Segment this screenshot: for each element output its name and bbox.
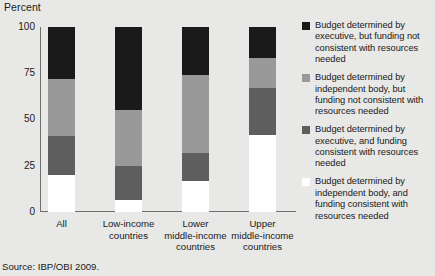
legend-item[interactable]: Budget determined by executive, and fund… bbox=[302, 124, 433, 170]
bar-segment[interactable] bbox=[249, 58, 276, 88]
bar-stack[interactable] bbox=[249, 27, 276, 212]
bar-segment[interactable] bbox=[249, 135, 276, 212]
bar-series-container: AllLow-income countriesLower middle-inco… bbox=[40, 27, 296, 212]
y-tick-50: 50 bbox=[24, 114, 35, 124]
legend-label: Budget determined by executive, and fund… bbox=[315, 124, 433, 170]
bar-segment[interactable] bbox=[48, 79, 75, 136]
bar-segment[interactable] bbox=[182, 27, 209, 75]
bar-group[interactable]: Lower middle-income countries bbox=[182, 27, 209, 212]
legend-swatch-icon bbox=[302, 126, 310, 134]
legend-label: Budget determined by independent body, b… bbox=[315, 72, 433, 118]
bar-segment[interactable] bbox=[115, 110, 142, 166]
legend-swatch-icon bbox=[302, 22, 310, 30]
bar-segment[interactable] bbox=[182, 181, 209, 212]
legend-item[interactable]: Budget determined by independent body, b… bbox=[302, 72, 433, 118]
legend-swatch-icon bbox=[302, 74, 310, 82]
bar-segment[interactable] bbox=[48, 175, 75, 212]
bar-stack[interactable] bbox=[48, 27, 75, 212]
bar-segment[interactable] bbox=[182, 153, 209, 181]
plot-area: 1007550250 AllLow-income countriesLower … bbox=[40, 24, 296, 215]
bar-stack[interactable] bbox=[115, 27, 142, 212]
legend-swatch-icon bbox=[302, 178, 310, 186]
bar-segment[interactable] bbox=[48, 27, 75, 79]
legend-item[interactable]: Budget determined by executive, but fund… bbox=[302, 20, 433, 66]
bar-group[interactable]: All bbox=[48, 27, 75, 212]
bar-segment[interactable] bbox=[182, 75, 209, 153]
y-tick-75: 75 bbox=[24, 68, 35, 78]
chart-legend: Budget determined by executive, but fund… bbox=[302, 20, 433, 229]
bar-segment[interactable] bbox=[115, 166, 142, 200]
bar-segment[interactable] bbox=[249, 27, 276, 58]
legend-label: Budget determined by independent body, a… bbox=[315, 176, 433, 222]
source-note: Source: IBP/OBI 2009. bbox=[2, 261, 99, 272]
x-tick-label: Upper middle-income countries bbox=[224, 218, 302, 253]
bar-group[interactable]: Low-income countries bbox=[115, 27, 142, 212]
bar-segment[interactable] bbox=[115, 27, 142, 110]
y-axis-unit-label: Percent bbox=[4, 1, 41, 13]
bar-stack[interactable] bbox=[182, 27, 209, 212]
legend-item[interactable]: Budget determined by independent body, a… bbox=[302, 176, 433, 222]
bar-group[interactable]: Upper middle-income countries bbox=[249, 27, 276, 212]
legend-label: Budget determined by executive, but fund… bbox=[315, 20, 433, 66]
y-tick-100: 100 bbox=[18, 22, 35, 32]
bar-segment[interactable] bbox=[115, 200, 142, 212]
y-tick-25: 25 bbox=[24, 161, 35, 171]
y-tick-0: 0 bbox=[29, 207, 35, 217]
bar-segment[interactable] bbox=[249, 88, 276, 135]
stacked-bar-chart-figure: Percent 1007550250 AllLow-income countri… bbox=[0, 0, 435, 276]
bar-segment[interactable] bbox=[48, 136, 75, 175]
